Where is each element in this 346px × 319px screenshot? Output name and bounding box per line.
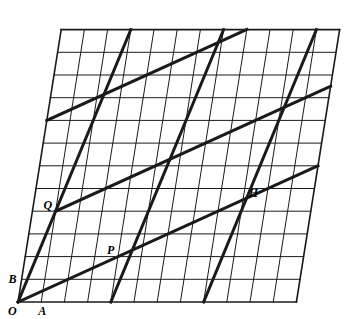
point-label-H: H bbox=[248, 186, 259, 200]
point-label-Q: Q bbox=[44, 198, 53, 212]
point-label-B: B bbox=[8, 272, 17, 286]
point-label-O: O bbox=[8, 304, 17, 318]
grid-lines-layer bbox=[22, 30, 336, 302]
point-label-P: P bbox=[107, 243, 115, 257]
lattice-diagram: OABPQH bbox=[0, 0, 346, 319]
point-label-A: A bbox=[37, 304, 46, 318]
geometry-figure: OABPQH bbox=[0, 0, 346, 319]
